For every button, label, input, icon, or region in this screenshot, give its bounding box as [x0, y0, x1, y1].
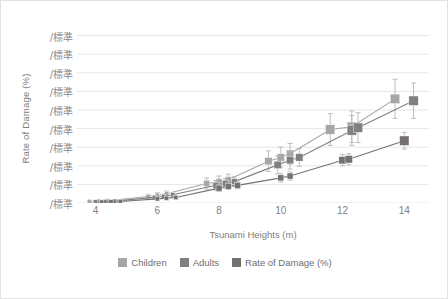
x-tick-label: 6 — [154, 205, 160, 216]
legend-item[interactable]: Rate of Damage (%) — [232, 257, 332, 268]
data-point — [109, 200, 113, 203]
y-tick-label: /標準 — [50, 28, 73, 43]
data-point — [277, 154, 284, 161]
data-point — [265, 157, 272, 164]
data-point — [325, 125, 334, 134]
y-tick-label: /標準 — [50, 158, 73, 173]
data-point — [204, 180, 210, 186]
y-tick-label: /標準 — [50, 177, 73, 192]
y-tick-label: /標準 — [50, 103, 73, 118]
series-line — [102, 141, 405, 202]
data-point — [286, 157, 293, 164]
data-point — [93, 200, 97, 203]
data-point — [174, 195, 178, 199]
series-adults — [93, 83, 418, 203]
y-tick-label: /標準 — [50, 196, 73, 211]
legend-label: Rate of Damage (%) — [245, 257, 332, 268]
y-tick-label: /標準 — [50, 47, 73, 62]
x-tick-label: 14 — [399, 205, 410, 216]
legend-swatch-icon — [118, 258, 127, 267]
data-point — [409, 96, 418, 105]
x-axis-title: Tsunami Heights (m) — [77, 229, 429, 240]
chart-legend: ChildrenAdultsRate of Damage (%) — [1, 257, 448, 268]
x-tick-label: 10 — [275, 205, 286, 216]
legend-item[interactable]: Children — [118, 257, 166, 268]
plot-area — [77, 17, 429, 203]
data-point — [235, 182, 241, 188]
data-point — [87, 199, 91, 203]
data-point — [400, 136, 409, 145]
data-point — [390, 94, 399, 103]
data-point — [296, 154, 303, 161]
y-tick-label: /標準 — [50, 121, 73, 136]
legend-swatch-icon — [232, 258, 241, 267]
legend-swatch-icon — [180, 258, 189, 267]
data-point — [155, 197, 159, 201]
data-point — [216, 185, 222, 191]
series-line — [96, 101, 414, 202]
y-tick-label: /標準 — [50, 65, 73, 80]
data-point — [274, 161, 281, 168]
plot-svg — [77, 17, 429, 203]
y-axis-tick-labels: /標準/標準/標準/標準/標準/標準/標準/標準/標準/標準 — [37, 17, 73, 203]
legend-item[interactable]: Adults — [180, 257, 219, 268]
x-tick-label: 4 — [93, 205, 99, 216]
data-point — [287, 173, 293, 179]
data-point — [225, 183, 231, 189]
data-point — [345, 156, 352, 163]
chart-figure: Rate of Damage (%) /標準/標準/標準/標準/標準/標準/標準… — [0, 0, 448, 299]
y-tick-label: /標準 — [50, 84, 73, 99]
data-point — [353, 123, 362, 132]
data-point — [278, 175, 284, 181]
x-axis-tick-labels: 468101214 — [77, 205, 429, 221]
y-tick-label: /標準 — [50, 140, 73, 155]
legend-label: Adults — [193, 257, 219, 268]
legend-label: Children — [131, 257, 166, 268]
x-tick-label: 8 — [216, 205, 222, 216]
data-point — [100, 200, 104, 203]
data-point — [118, 199, 122, 203]
series-line — [89, 99, 395, 202]
y-axis-title: Rate of Damage (%) — [20, 49, 31, 189]
data-point — [164, 196, 168, 200]
x-tick-label: 12 — [337, 205, 348, 216]
